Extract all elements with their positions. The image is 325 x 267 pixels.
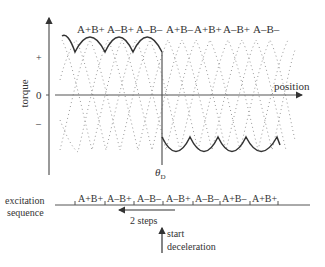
solid-torque-curve-bottom <box>162 137 280 152</box>
start-label-line1: start <box>167 229 184 239</box>
phase-label: A–B+ <box>107 24 134 35</box>
excitation-label-line2: sequence <box>7 208 44 218</box>
y-axis-label: torque <box>19 79 30 107</box>
y-tick-plus: + <box>36 53 42 63</box>
theta-d-label: θD <box>155 167 165 181</box>
solid-torque-curve-top <box>62 35 162 52</box>
excitation-step: A–B+ <box>107 194 132 204</box>
excitation-step: A+B+ <box>78 194 103 204</box>
excitation-step: A+B– <box>222 194 247 204</box>
phase-label: A+B– <box>166 24 193 35</box>
phase-label: A+B+ <box>194 24 222 35</box>
phase-label: A+B+ <box>77 24 105 35</box>
start-label-line2: deceleration <box>167 242 216 252</box>
y-tick-minus: – <box>36 119 41 129</box>
two-steps-label: 2 steps <box>130 216 158 226</box>
phase-label: A–B– <box>136 24 162 35</box>
phase-label: A–B– <box>253 24 279 35</box>
phase-label: A–B+ <box>223 24 250 35</box>
dotted-torque-curves <box>60 40 295 152</box>
y-tick-zero: 0 <box>36 90 42 101</box>
excitation-step: A–B+ <box>166 194 191 204</box>
excitation-step: A+B+ <box>252 194 277 204</box>
excitation-step: A–B– <box>137 194 161 204</box>
torque-position-diagram <box>0 0 325 267</box>
excitation-step: A–B– <box>195 194 219 204</box>
x-axis-label: position <box>274 81 309 92</box>
excitation-label-line1: excitation <box>5 196 44 206</box>
